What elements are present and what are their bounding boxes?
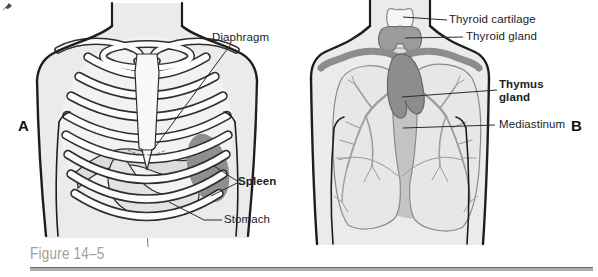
figure-14-5: Diaphragm Spleen Stomach A Thyroid carti… [0, 0, 598, 277]
mediastinum-label: Mediastinum [499, 118, 565, 131]
panel-a-letter: A [18, 117, 29, 134]
figure-rule [30, 267, 593, 271]
spleen-label: Spleen [238, 175, 276, 188]
thymus-gland-label: Thymus gland [499, 78, 559, 104]
thyroid-gland-label: Thyroid gland [466, 30, 537, 43]
stray-pen-mark [3, 3, 12, 10]
thyroid-cartilage-label: Thyroid cartilage [449, 13, 536, 26]
stomach-label: Stomach [224, 213, 270, 226]
midline-crease [148, 238, 149, 247]
thyroid-cartilage-shape [387, 9, 414, 28]
figure-caption: Figure 14–5 [30, 245, 105, 263]
panel-b-letter: B [571, 117, 582, 134]
diaphragm-label: Diaphragm [212, 31, 269, 44]
